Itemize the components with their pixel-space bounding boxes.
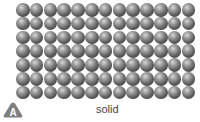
- particle-sphere: [71, 58, 85, 72]
- particle-sphere: [71, 31, 85, 45]
- particle-sphere: [182, 86, 196, 100]
- particle-sphere: [85, 72, 99, 86]
- particle-sphere: [44, 72, 58, 86]
- particle-sphere: [182, 17, 196, 31]
- particle-sphere: [85, 3, 99, 17]
- particle-sphere: [154, 44, 168, 58]
- particle-sphere: [85, 86, 99, 100]
- particle-sphere: [57, 31, 71, 45]
- particle-sphere: [140, 44, 154, 58]
- particle-sphere: [99, 58, 113, 72]
- particle-sphere: [85, 44, 99, 58]
- particle-sphere: [154, 3, 168, 17]
- particle-sphere: [85, 31, 99, 45]
- particle-sphere: [57, 3, 71, 17]
- particle-sphere: [71, 17, 85, 31]
- particle-sphere: [168, 44, 182, 58]
- particle-sphere: [30, 86, 44, 100]
- particle-sphere: [168, 72, 182, 86]
- particle-sphere: [30, 58, 44, 72]
- particle-sphere: [182, 72, 196, 86]
- particle-sphere: [140, 3, 154, 17]
- particle-sphere: [99, 86, 113, 100]
- particle-sphere: [113, 44, 127, 58]
- particle-sphere: [126, 58, 140, 72]
- particle-sphere: [168, 86, 182, 100]
- particle-sphere: [154, 31, 168, 45]
- particle-sphere: [168, 31, 182, 45]
- particle-sphere: [16, 17, 30, 31]
- particle-sphere: [113, 86, 127, 100]
- particle-sphere: [126, 72, 140, 86]
- solid-particle-grid: [16, 3, 195, 100]
- particle-sphere: [182, 3, 196, 17]
- particle-sphere: [126, 44, 140, 58]
- particle-sphere: [71, 72, 85, 86]
- particle-sphere: [182, 58, 196, 72]
- particle-sphere: [154, 86, 168, 100]
- particle-sphere: [44, 17, 58, 31]
- particle-sphere: [57, 86, 71, 100]
- particle-sphere: [44, 31, 58, 45]
- particle-sphere: [182, 44, 196, 58]
- particle-sphere: [57, 44, 71, 58]
- particle-sphere: [57, 58, 71, 72]
- particle-sphere: [154, 58, 168, 72]
- particle-sphere: [44, 86, 58, 100]
- particle-sphere: [30, 17, 44, 31]
- particle-sphere: [16, 58, 30, 72]
- particle-sphere: [126, 17, 140, 31]
- particle-sphere: [140, 31, 154, 45]
- particle-sphere: [71, 86, 85, 100]
- particle-sphere: [30, 31, 44, 45]
- particle-sphere: [140, 58, 154, 72]
- particle-sphere: [140, 86, 154, 100]
- particle-sphere: [113, 31, 127, 45]
- triangle-badge-icon: A: [2, 101, 24, 119]
- particle-sphere: [99, 72, 113, 86]
- particle-sphere: [126, 3, 140, 17]
- particle-sphere: [16, 72, 30, 86]
- particle-sphere: [140, 17, 154, 31]
- particle-sphere: [57, 72, 71, 86]
- panel-letter: A: [9, 107, 16, 118]
- particle-sphere: [126, 86, 140, 100]
- particle-sphere: [99, 44, 113, 58]
- particle-sphere: [16, 31, 30, 45]
- particle-sphere: [44, 44, 58, 58]
- particle-sphere: [126, 31, 140, 45]
- particle-sphere: [71, 3, 85, 17]
- panel-badge: A: [2, 101, 24, 119]
- state-caption: solid: [96, 103, 119, 115]
- particle-sphere: [154, 17, 168, 31]
- particle-sphere: [85, 58, 99, 72]
- particle-sphere: [99, 31, 113, 45]
- particle-sphere: [182, 31, 196, 45]
- particle-sphere: [71, 44, 85, 58]
- particle-sphere: [113, 72, 127, 86]
- particle-sphere: [57, 17, 71, 31]
- particle-sphere: [168, 58, 182, 72]
- particle-sphere: [99, 3, 113, 17]
- particle-sphere: [16, 44, 30, 58]
- particle-sphere: [44, 3, 58, 17]
- particle-sphere: [16, 86, 30, 100]
- particle-sphere: [113, 17, 127, 31]
- particle-sphere: [113, 3, 127, 17]
- particle-sphere: [44, 58, 58, 72]
- particle-sphere: [30, 44, 44, 58]
- particle-sphere: [30, 3, 44, 17]
- particle-sphere: [16, 3, 30, 17]
- particle-sphere: [85, 17, 99, 31]
- particle-sphere: [113, 58, 127, 72]
- particle-sphere: [154, 72, 168, 86]
- particle-sphere: [168, 17, 182, 31]
- particle-sphere: [140, 72, 154, 86]
- particle-sphere: [168, 3, 182, 17]
- particle-sphere: [30, 72, 44, 86]
- particle-sphere: [99, 17, 113, 31]
